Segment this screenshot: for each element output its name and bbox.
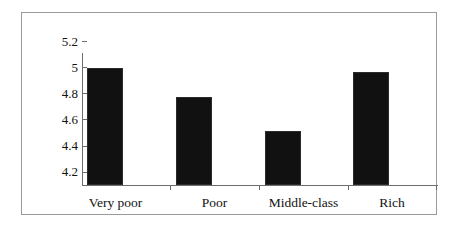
- bar-poor: [176, 97, 212, 185]
- bar-very-poor: [87, 68, 123, 185]
- bar-middle-class: [265, 131, 301, 185]
- y-tick-label-3: 4.6: [42, 113, 78, 126]
- y-tick-mark-5-2: [82, 41, 87, 42]
- y-tick-label-4: 4.4: [42, 139, 78, 152]
- chart-figure-frame: 5.2 5 4.8 4.6 4.4 4.2 Very poor Poor Mid…: [21, 12, 437, 215]
- y-tick-label-0: 5.2: [42, 35, 78, 48]
- y-axis-labels: 5.2 5 4.8 4.6 4.4 4.2: [38, 13, 78, 216]
- x-tick-mark-4: [436, 185, 437, 190]
- x-tick-mark-3: [348, 185, 349, 190]
- x-tick-mark-2: [259, 185, 260, 190]
- y-tick-label-2: 4.8: [42, 87, 78, 100]
- category-label-very-poor: Very poor: [61, 195, 170, 211]
- category-label-middle-class: Middle-class: [259, 195, 348, 211]
- y-tick-label-1: 5: [42, 61, 78, 74]
- x-tick-mark-1: [170, 185, 171, 190]
- y-tick-label-5: 4.2: [42, 165, 78, 178]
- screenshot-root: 5.2 5 4.8 4.6 4.4 4.2 Very poor Poor Mid…: [0, 0, 462, 232]
- bar-rich: [353, 72, 389, 185]
- category-label-poor: Poor: [170, 195, 259, 211]
- category-axis-line: [82, 185, 438, 186]
- category-label-rich: Rich: [348, 195, 436, 211]
